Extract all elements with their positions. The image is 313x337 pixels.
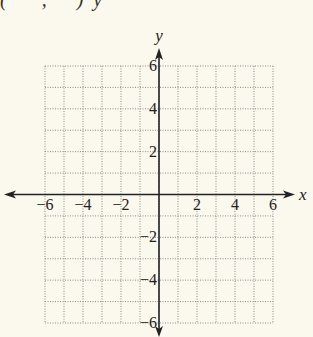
y-tick-label: 6 — [149, 57, 157, 74]
coordinate-plane: −6−4−2246−6−4−2246 x y — [0, 0, 313, 337]
y-tick-label: 4 — [149, 100, 157, 117]
x-tick-label: −6 — [36, 196, 53, 213]
x-tick-label: −2 — [112, 196, 129, 213]
y-tick-label: −4 — [140, 271, 157, 288]
x-tick-label: 4 — [231, 196, 239, 213]
y-tick-label: −2 — [140, 228, 157, 245]
axes — [4, 48, 295, 337]
x-tick-label: −4 — [74, 196, 91, 213]
y-tick-label: −6 — [140, 314, 157, 331]
y-tick-label: 2 — [149, 143, 157, 160]
x-axis-label: x — [298, 185, 307, 204]
x-tick-label: 2 — [193, 196, 201, 213]
x-tick-label: 6 — [269, 196, 277, 213]
y-axis-label: y — [153, 26, 163, 45]
